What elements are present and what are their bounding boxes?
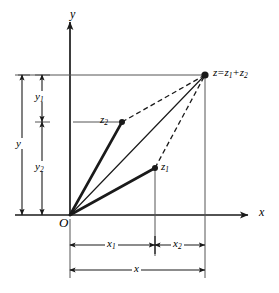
sum-plus: + [233,66,240,78]
point-marker-z [201,71,208,78]
sum-term2-sub: 2 [244,71,248,80]
sum-equals: = [217,66,224,78]
point-label-z2-sub: 2 [104,118,108,127]
axis-group [15,22,248,215]
point-label-z1-sub: 1 [165,165,169,174]
complex-addition-figure: y x O z2 z1 z=z1+z2 y y1 y2 x1 x2 x [0,0,279,293]
origin-label: O [59,216,68,229]
vector-group-solid [70,75,205,215]
y-axis-label: y [70,8,75,20]
point-marker-z2 [119,119,125,125]
dimension-label-y2-sub: 2 [40,165,44,174]
dimension-label-x2-sub: 2 [178,242,182,251]
figure-canvas [0,0,279,293]
sum-equation-label: z=z1+z2 [213,67,248,78]
dashed-side-z2-z [122,75,205,122]
dimension-label-x: x [132,263,141,274]
dimension-label-x1-sub: 1 [112,242,116,251]
dimension-label-y1: y1 [33,91,46,102]
dimension-label-x1: x1 [105,238,118,249]
x-axis-label: x [259,206,264,218]
vector-O-z [70,75,205,215]
dimension-label-y: y [14,138,23,149]
dimension-label-x-base: x [134,262,139,274]
point-markers [119,71,209,171]
point-label-z1: z1 [161,161,169,172]
dimension-label-y-base: y [16,137,21,149]
vector-group-dashed [122,75,205,168]
dimension-label-x2: x2 [171,238,184,249]
point-marker-z1 [152,165,158,171]
sum-term1-sub: 1 [229,71,233,80]
point-label-z2: z2 [100,114,108,125]
dimension-label-y2: y2 [33,161,46,172]
dimension-label-y1-sub: 1 [40,95,44,104]
